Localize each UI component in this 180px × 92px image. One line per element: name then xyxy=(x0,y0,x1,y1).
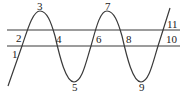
label-11: 11 xyxy=(167,18,178,30)
label-9: 9 xyxy=(139,81,145,92)
label-10: 10 xyxy=(166,33,178,45)
label-7: 7 xyxy=(105,0,111,12)
label-5: 5 xyxy=(72,81,78,92)
label-8: 8 xyxy=(126,33,132,45)
wave-diagram: 1 2 3 4 5 6 7 8 9 10 11 xyxy=(0,0,180,92)
label-6: 6 xyxy=(96,33,102,45)
label-2: 2 xyxy=(16,32,22,44)
label-1: 1 xyxy=(12,48,18,60)
label-3: 3 xyxy=(37,0,43,12)
wave-curve xyxy=(8,8,170,86)
label-4: 4 xyxy=(56,33,62,45)
